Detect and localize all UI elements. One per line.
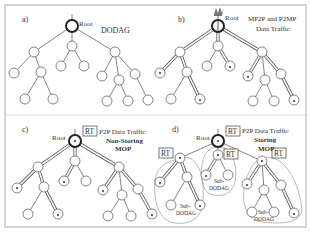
- rt-table-badge: RT: [274, 149, 284, 158]
- panel-d-caption-1: P2P Data Traffic: [242, 127, 289, 135]
- root-label: Root: [196, 134, 210, 142]
- sub-dodag-label: Sub-: [180, 203, 191, 209]
- panel-a-label: a): [22, 15, 29, 24]
- dodag-figure: a) Root DODAG b): [0, 0, 311, 232]
- panel-b-caption-1: MP2P and P2MP: [248, 15, 296, 23]
- panel-c-caption-3: MOP: [115, 145, 132, 153]
- panel-b: b) Root MP2P and P2MP Data Traffic: [155, 7, 299, 106]
- panel-d-label: d): [172, 125, 179, 134]
- root-label: Root: [225, 14, 239, 22]
- root-label: Root: [79, 20, 93, 28]
- panel-c-caption-1: P2P Data Traffic: [99, 128, 146, 136]
- panel-d-caption-2: Storing: [254, 136, 277, 144]
- panel-b-caption-2: Data Traffic: [256, 25, 290, 33]
- panel-a: a) Root DODAG: [9, 14, 153, 106]
- panel-c-caption-2: Non-Storing: [106, 137, 143, 145]
- rt-table-badge: RT: [228, 127, 238, 136]
- rt-table-badge: RT: [85, 127, 95, 136]
- panel-b-label: b): [178, 15, 185, 24]
- panel-d-caption-3: MOP: [258, 145, 275, 153]
- sub-dodag-label: Sub-: [214, 178, 225, 184]
- panel-c-label: c): [22, 125, 29, 134]
- panel-a-caption: DODAG: [101, 26, 130, 35]
- panel-c: c) Root RT P2P Data Traffic Non-Storing …: [12, 125, 157, 221]
- sub-dodag-label: DODAG: [254, 216, 274, 222]
- antenna-icon: [214, 7, 224, 16]
- sub-dodag-label: DODAG: [176, 210, 196, 216]
- root-node: [66, 20, 78, 32]
- panel-d: d) Root RT RT RT: [155, 125, 302, 223]
- rt-table-badge: RT: [161, 149, 171, 158]
- sub-dodag-label: Sub-: [258, 209, 269, 215]
- rt-table-badge: RT: [226, 150, 236, 159]
- sub-dodag-label: DODAG: [209, 185, 229, 191]
- root-label: Root: [52, 134, 66, 142]
